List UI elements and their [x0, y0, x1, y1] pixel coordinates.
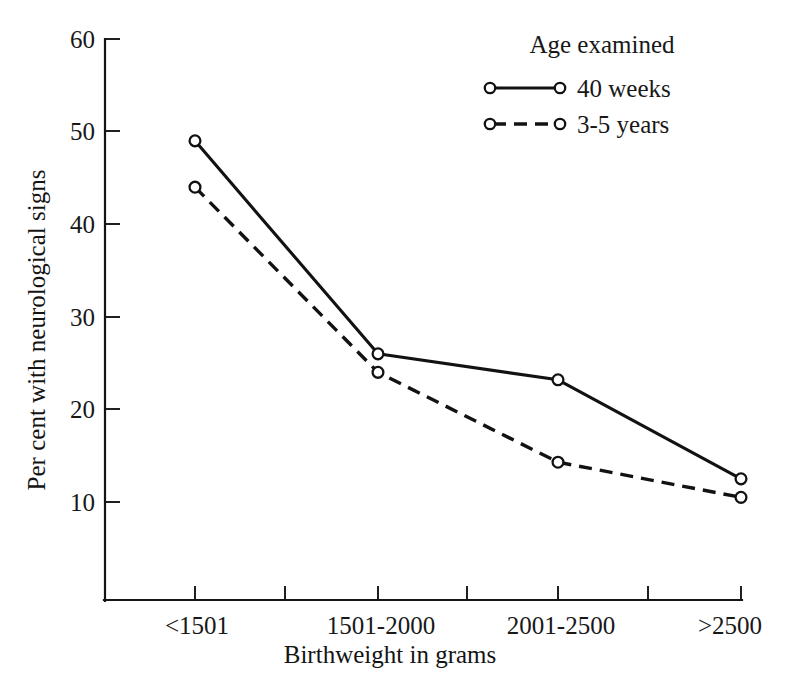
y-axis-title: Per cent with neurological signs	[23, 170, 50, 491]
legend-swatch-solid-marker-left	[485, 83, 495, 93]
x-tick-label-4: >2500	[698, 612, 762, 639]
legend-swatch-dashed-marker-right	[555, 119, 565, 129]
y-tick-label-60: 60	[70, 26, 95, 53]
data-point-marker	[736, 492, 747, 503]
chart-background	[0, 0, 792, 680]
legend-label-40-weeks: 40 weeks	[577, 75, 671, 102]
legend-title: Age examined	[529, 31, 675, 58]
data-point-marker	[553, 457, 564, 468]
data-point-marker	[373, 367, 384, 378]
y-tick-label-10: 10	[70, 489, 95, 516]
x-tick-label-1: <1501	[165, 612, 229, 639]
y-tick-label-20: 20	[70, 396, 95, 423]
line-chart-canvas: 60 50 40 30 20 10 <1501 1501-2000 2001-2…	[0, 0, 792, 680]
legend-swatch-dashed-marker-left	[485, 119, 495, 129]
x-axis-title: Birthweight in grams	[284, 641, 496, 668]
data-point-marker	[736, 473, 747, 484]
y-tick-label-30: 30	[70, 304, 95, 331]
y-tick-label-40: 40	[70, 211, 95, 238]
x-tick-label-2: 1501-2000	[327, 612, 435, 639]
chart-figure: 60 50 40 30 20 10 <1501 1501-2000 2001-2…	[0, 0, 792, 680]
x-tick-label-3: 2001-2500	[507, 612, 615, 639]
y-tick-label-50: 50	[70, 118, 95, 145]
data-point-marker	[190, 182, 201, 193]
legend-label-3-5-years: 3-5 years	[577, 111, 669, 138]
data-point-marker	[190, 135, 201, 146]
legend-swatch-solid-marker-right	[555, 83, 565, 93]
data-point-marker	[373, 348, 384, 359]
data-point-marker	[553, 374, 564, 385]
